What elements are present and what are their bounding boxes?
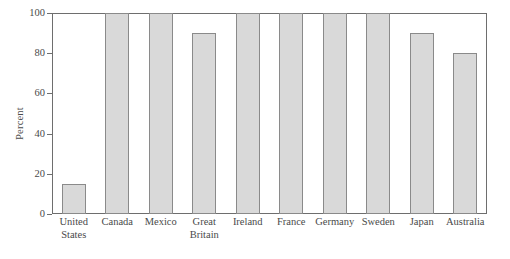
x-axis-tick-label: Germany [313, 216, 357, 229]
x-axis-tick-label-line1: United [59, 216, 88, 227]
x-axis-tick-label-line1: Mexico [145, 216, 177, 227]
y-axis: 020406080100 [0, 13, 52, 214]
bar-slot [444, 13, 488, 214]
bar[interactable] [105, 13, 129, 214]
x-axis-tick-label-line2: States [52, 229, 96, 242]
bar-slot [139, 13, 183, 214]
y-axis-tick-label: 0 [40, 207, 45, 221]
bar[interactable] [62, 184, 86, 214]
bar[interactable] [453, 53, 477, 214]
y-axis-tick-mark [47, 214, 52, 215]
x-axis-tick-label-line1: Canada [102, 216, 134, 227]
bar[interactable] [192, 33, 216, 214]
x-axis-tick-label: Mexico [139, 216, 183, 229]
bar-slot [226, 13, 270, 214]
bar-slot [313, 13, 357, 214]
x-axis-tick-label-line1: Australia [446, 216, 485, 227]
x-axis-tick-label: Japan [400, 216, 444, 229]
x-axis-tick-label-line1: Japan [410, 216, 434, 227]
x-axis-tick-label-line1: Great [193, 216, 216, 227]
bar[interactable] [410, 33, 434, 214]
x-axis-tick-label-line2: Britain [183, 229, 227, 242]
y-axis-tick-label: 40 [35, 127, 46, 141]
x-axis-tick-label: France [270, 216, 314, 229]
x-axis-tick-label: GreatBritain [183, 216, 227, 241]
bar[interactable] [323, 13, 347, 214]
bar-slot [357, 13, 401, 214]
x-axis-tick-label: UnitedStates [52, 216, 96, 241]
bar-slot [270, 13, 314, 214]
y-axis-tick-label: 20 [35, 167, 46, 181]
bar-slot [96, 13, 140, 214]
y-axis-tick-label: 100 [29, 6, 45, 20]
x-axis-tick-label: Ireland [226, 216, 270, 229]
x-axis-tick-label: Canada [96, 216, 140, 229]
bar[interactable] [279, 13, 303, 214]
bar-slot [183, 13, 227, 214]
bar[interactable] [236, 13, 260, 214]
bar-chart: Percent 020406080100 UnitedStatesCanadaM… [0, 0, 510, 259]
x-axis-tick-label-line1: Sweden [362, 216, 395, 227]
x-axis-tick-label: Sweden [357, 216, 401, 229]
bar-slot [400, 13, 444, 214]
y-axis-tick-label: 60 [35, 86, 46, 100]
bars-area [52, 13, 487, 214]
x-axis-tick-label-line1: Germany [315, 216, 354, 227]
bar-slot [52, 13, 96, 214]
bar[interactable] [149, 13, 173, 214]
x-axis-tick-label-line1: Ireland [233, 216, 263, 227]
y-axis-tick-label: 80 [35, 46, 46, 60]
x-axis: UnitedStatesCanadaMexicoGreatBritainIrel… [52, 216, 487, 259]
bar[interactable] [366, 13, 390, 214]
x-axis-tick-label: Australia [444, 216, 488, 229]
x-axis-tick-label-line1: France [277, 216, 306, 227]
